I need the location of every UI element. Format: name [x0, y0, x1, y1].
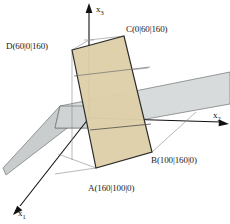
axis-x3-arrowhead — [86, 3, 93, 13]
gray-plane-front-sliver-group — [3, 128, 55, 176]
construction-line-b-to-x2 — [152, 112, 196, 152]
geometry-figure: C(0|60|160) D(60|0|160) B(100|160|0) A(1… — [0, 0, 230, 224]
rectangle-abcd — [72, 36, 152, 168]
axis-label-x1-sub: 1 — [23, 213, 26, 220]
axis-label-x2: x2 — [213, 110, 221, 122]
point-label-C: C(0|60|160) — [126, 24, 168, 34]
construction-line-a-to-x1 — [58, 154, 96, 168]
axis-label-x3: x3 — [96, 4, 104, 16]
point-label-A: A(160|100|0) — [88, 183, 134, 193]
axis-label-x3-sub: 3 — [101, 9, 104, 16]
point-label-D: D(60|0|160) — [6, 41, 48, 51]
axis-label-x1: x1 — [18, 208, 26, 220]
gray-plane-front-sliver — [3, 128, 55, 176]
axis-label-x2-sub: 2 — [218, 115, 221, 122]
point-label-B: B(100|160|0) — [151, 155, 197, 165]
tan-rectangle-group — [72, 36, 152, 168]
construction-line-a-base — [55, 168, 96, 174]
